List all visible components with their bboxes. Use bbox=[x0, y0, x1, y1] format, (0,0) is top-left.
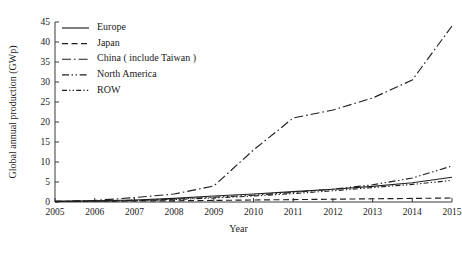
y-axis-title: Global annual production (GWp) bbox=[7, 45, 19, 178]
x-tick-label: 2015 bbox=[443, 207, 462, 217]
y-tick-label: 10 bbox=[41, 157, 51, 167]
chart-legend: EuropeJapanChina ( include Taiwan )North… bbox=[62, 21, 196, 94]
x-tick-label: 2011 bbox=[284, 207, 303, 217]
legend-label: Europe bbox=[97, 21, 126, 32]
y-tick-label: 30 bbox=[41, 77, 51, 87]
x-tick-label: 2009 bbox=[204, 207, 223, 217]
y-tick-label: 20 bbox=[41, 117, 51, 127]
y-axis-ticks: 051015202530354045 bbox=[41, 17, 60, 207]
y-tick-label: 40 bbox=[41, 37, 51, 47]
legend-label: North America bbox=[97, 68, 157, 79]
x-tick-label: 2008 bbox=[165, 207, 184, 217]
legend-label: ROW bbox=[97, 84, 121, 95]
x-tick-label: 2013 bbox=[363, 207, 382, 217]
legend-label: China ( include Taiwan ) bbox=[97, 52, 196, 64]
y-axis-title-label: Global annual production (GWp) bbox=[7, 45, 19, 178]
x-tick-label: 2010 bbox=[244, 207, 263, 217]
y-tick-label: 25 bbox=[41, 97, 51, 107]
chart-figure: Global annual production (GWp) 051015202… bbox=[0, 0, 462, 257]
axis-frame bbox=[55, 22, 452, 202]
y-tick-label: 15 bbox=[41, 137, 51, 147]
series-line bbox=[55, 177, 452, 201]
x-axis-title: Year bbox=[229, 223, 248, 234]
axis-lines bbox=[55, 22, 452, 202]
y-tick-label: 0 bbox=[45, 197, 50, 207]
x-tick-label: 2014 bbox=[403, 207, 422, 217]
x-tick-label: 2007 bbox=[125, 207, 144, 217]
y-tick-label: 35 bbox=[41, 57, 51, 67]
legend-label: Japan bbox=[97, 37, 120, 48]
y-tick-label: 5 bbox=[45, 177, 50, 187]
x-tick-label: 2012 bbox=[323, 207, 342, 217]
line-chart: Global annual production (GWp) 051015202… bbox=[0, 0, 462, 257]
y-tick-label: 45 bbox=[41, 17, 51, 27]
x-axis-title-label: Year bbox=[229, 223, 248, 234]
x-tick-label: 2005 bbox=[46, 207, 65, 217]
series-line bbox=[55, 166, 452, 201]
x-tick-label: 2006 bbox=[85, 207, 104, 217]
